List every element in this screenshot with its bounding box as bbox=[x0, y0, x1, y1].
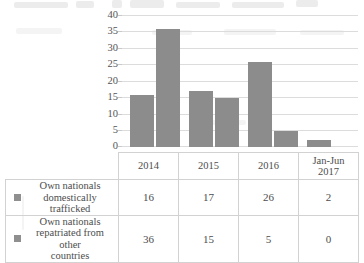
column-header-2014: 2014 bbox=[119, 153, 179, 180]
legend-label-line3: countries bbox=[51, 250, 90, 261]
bar-group-2015 bbox=[189, 15, 239, 147]
column-header-line1: Jan-Jun bbox=[299, 155, 358, 167]
cell-series2-2015: 15 bbox=[179, 215, 239, 262]
column-header-line2: 2017 bbox=[299, 166, 358, 178]
bar-group-2017 bbox=[307, 15, 357, 147]
bar-group-2016 bbox=[248, 15, 298, 147]
cell-series1-2015: 17 bbox=[179, 180, 239, 216]
bar-series1-2015 bbox=[189, 91, 213, 147]
column-header-2016: 2016 bbox=[239, 153, 299, 180]
legend-label-line2: domestically trafficked bbox=[43, 192, 97, 215]
legend-row-series2: Own nationals repatriated from other cou… bbox=[6, 215, 119, 262]
legend-label-series2: Own nationals repatriated from other cou… bbox=[26, 216, 118, 262]
bar-series1-2016 bbox=[248, 62, 272, 147]
bar-series2-2015 bbox=[215, 98, 239, 147]
legend-label-line2: repatriated from other bbox=[36, 227, 104, 250]
y-tick-label: 25 bbox=[78, 59, 118, 69]
y-tick-label: 10 bbox=[78, 109, 118, 119]
cell-series2-2017: 0 bbox=[298, 215, 358, 262]
legend-swatch-icon bbox=[14, 235, 21, 242]
y-tick-label: 30 bbox=[78, 43, 118, 53]
y-tick-label: 35 bbox=[78, 26, 118, 36]
table-row: Own nationals repatriated from other cou… bbox=[6, 215, 359, 262]
cell-series1-2014: 16 bbox=[119, 180, 179, 216]
legend-swatch-icon bbox=[14, 194, 21, 201]
column-header-line1: 2014 bbox=[119, 160, 178, 172]
bar-series2-2016 bbox=[274, 131, 298, 147]
cell-series2-2014: 36 bbox=[119, 215, 179, 262]
legend-label-series1: Own nationals domestically trafficked bbox=[26, 180, 118, 215]
y-tick-label: 15 bbox=[78, 92, 118, 102]
table-corner-cell bbox=[6, 153, 119, 180]
column-header-line1: 2016 bbox=[239, 160, 298, 172]
bar-chart: 40 35 30 25 20 15 10 5 0 bbox=[0, 0, 364, 150]
bar-series2-2014 bbox=[156, 29, 180, 147]
table-row: Own nationals domestically trafficked 16… bbox=[6, 180, 359, 216]
y-tick-label: 0 bbox=[78, 141, 118, 151]
column-header-line1: 2015 bbox=[179, 160, 238, 172]
cell-series2-2016: 5 bbox=[239, 215, 299, 262]
bar-series1-2014 bbox=[130, 95, 154, 147]
y-tick-label: 5 bbox=[78, 125, 118, 135]
legend-row-series1: Own nationals domestically trafficked bbox=[6, 180, 119, 216]
column-header-2017: Jan-Jun 2017 bbox=[298, 153, 358, 180]
table-header-row: 2014 2015 2016 Jan-Jun 2017 bbox=[6, 153, 359, 180]
bar-group-2014 bbox=[130, 15, 180, 147]
y-tick-label: 40 bbox=[78, 10, 118, 20]
legend-label-line1: Own nationals bbox=[40, 180, 101, 191]
legend-label-line1: Own nationals bbox=[40, 216, 101, 227]
data-table: 2014 2015 2016 Jan-Jun 2017 bbox=[5, 152, 359, 263]
cell-series1-2017: 2 bbox=[298, 180, 358, 216]
plot-area bbox=[122, 15, 358, 147]
cell-series1-2016: 26 bbox=[239, 180, 299, 216]
column-header-2015: 2015 bbox=[179, 153, 239, 180]
y-tick-label: 20 bbox=[78, 76, 118, 86]
y-axis: 40 35 30 25 20 15 10 5 0 bbox=[74, 0, 118, 150]
bar-series1-2017 bbox=[307, 140, 331, 147]
